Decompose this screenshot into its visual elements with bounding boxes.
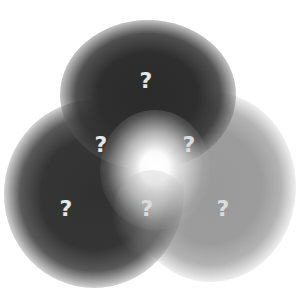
region-label-top-left: ? [89,131,113,159]
region-label-top: ? [134,67,158,95]
venn-diagram: ? ? ? ? ? ? [0,0,298,289]
region-label-right: ? [211,195,235,223]
region-label-top-right: ? [177,131,201,159]
region-label-bottom-center: ? [135,195,159,223]
region-label-left: ? [54,195,78,223]
